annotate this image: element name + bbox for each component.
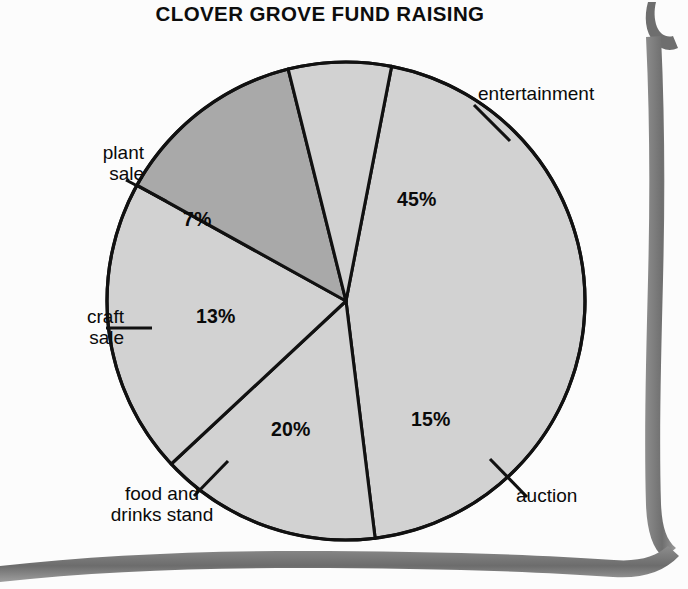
pie-label-food-and-drinks-stand: food anddrinks stand [62,483,262,526]
scanned-page: CLOVER GROVE FUND RAISING entertainment … [0,0,688,589]
pie-label-craft-sale: craftsale [38,306,124,349]
pie-label-entertainment: entertainment [478,83,594,104]
pie-value-craft-sale: 13% [196,305,236,328]
pie-label-plant-sale-line1: plant [103,142,144,163]
pie-value-plant-sale: 7% [183,208,212,231]
pie-label-plant-sale: plantsale [52,142,144,185]
pie-value-auction: 15% [411,408,451,431]
pie-value-food-and-drinks-stand: 20% [271,418,311,441]
pie-label-auction: auction [516,485,577,506]
pie-label-craft-sale-line1: craft [87,306,124,327]
pie-label-food-and-drinks-stand-line2: drinks stand [111,504,213,525]
pie-slice-entertainment[interactable] [346,66,585,538]
pie-label-plant-sale-line2: sale [109,163,144,184]
pie-value-entertainment: 45% [397,188,437,211]
page-title: CLOVER GROVE FUND RAISING [0,2,640,26]
pie-label-craft-sale-line2: sale [89,327,124,348]
pie-label-food-and-drinks-stand-line1: food and [125,483,199,504]
